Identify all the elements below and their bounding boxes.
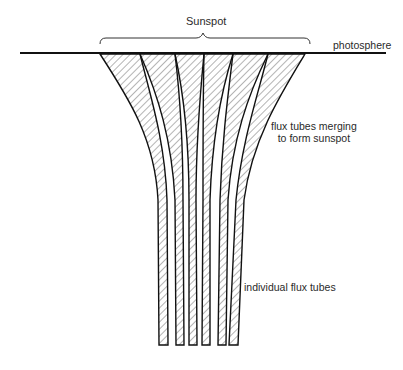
flux-tubes [100, 54, 305, 345]
individual-flux-tubes-label: individual flux tubes [244, 281, 336, 293]
sunspot-diagram [0, 0, 403, 370]
photosphere-label: photosphere [333, 39, 391, 51]
sunspot-label: Sunspot [186, 15, 226, 27]
sunspot-brace [100, 33, 310, 44]
merging-label-line-1: flux tubes merging [271, 120, 357, 132]
merging-label-line-2: to form sunspot [271, 132, 357, 144]
merging-flux-tubes-label: flux tubes merging to form sunspot [271, 120, 357, 144]
